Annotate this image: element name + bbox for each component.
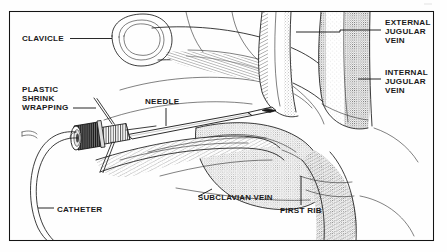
label-internal-jugular-vein-line-3: VEIN bbox=[385, 86, 405, 95]
label-external-jugular-vein-line-2: JUGULAR bbox=[385, 27, 426, 36]
label-plastic-shrink-wrapping-line-2: SHRINK bbox=[22, 94, 55, 103]
label-internal-jugular-vein-line-2: JUGULAR bbox=[385, 77, 426, 86]
label-needle: NEEDLE bbox=[145, 97, 180, 106]
label-plastic-shrink-wrapping-line-3: WRAPPING bbox=[22, 103, 69, 112]
label-external-jugular-vein-line-1: EXTERNAL bbox=[385, 18, 431, 27]
label-clavicle: CLAVICLE bbox=[22, 34, 64, 43]
label-internal-jugular-vein-line-1: INTERNAL bbox=[385, 68, 428, 77]
label-plastic-shrink-wrapping-line-1: PLASTIC bbox=[22, 85, 58, 94]
illustration-canvas: CLAVICLE PLASTIC SHRINK WRAPPING NEEDLE … bbox=[0, 0, 447, 252]
label-first-rib: FIRST RIB bbox=[280, 206, 322, 215]
figure-root: CLAVICLE PLASTIC SHRINK WRAPPING NEEDLE … bbox=[0, 0, 447, 252]
label-catheter: CATHETER bbox=[57, 205, 102, 214]
label-external-jugular-vein-line-3: VEIN bbox=[385, 36, 405, 45]
label-subclavian-vein: SUBCLAVIAN VEIN bbox=[198, 193, 273, 202]
